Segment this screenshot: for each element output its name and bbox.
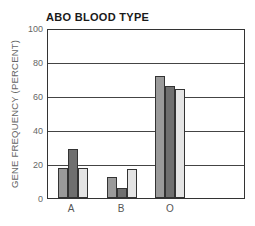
gridline-60	[48, 97, 244, 98]
y-tick-20: 20	[19, 160, 43, 170]
y-tick-40: 40	[19, 126, 43, 136]
bar-b-series-3	[127, 169, 137, 198]
x-tick-A: A	[68, 203, 75, 214]
bar-o-series-1	[155, 76, 165, 198]
y-tick-80: 80	[19, 58, 43, 68]
y-tick-100: 100	[19, 24, 43, 34]
bar-b-series-2	[117, 188, 127, 198]
y-tick-60: 60	[19, 92, 43, 102]
gridline-40	[48, 131, 244, 132]
bar-a-series-3	[78, 168, 88, 198]
y-tick-0: 0	[19, 194, 43, 204]
bar-o-series-2	[165, 86, 175, 198]
bar-b-series-1	[107, 177, 117, 198]
chart-title: ABO BLOOD TYPE	[46, 11, 149, 23]
x-tick-O: O	[166, 203, 174, 214]
gridline-80	[48, 63, 244, 64]
bar-a-series-1	[58, 168, 68, 198]
bar-a-series-2	[68, 149, 78, 198]
x-tick-B: B	[118, 203, 125, 214]
bar-o-series-3	[175, 89, 185, 198]
plot-area	[47, 29, 245, 199]
y-axis-label: GENE FREQUENCY (PERCENT)	[9, 40, 20, 188]
